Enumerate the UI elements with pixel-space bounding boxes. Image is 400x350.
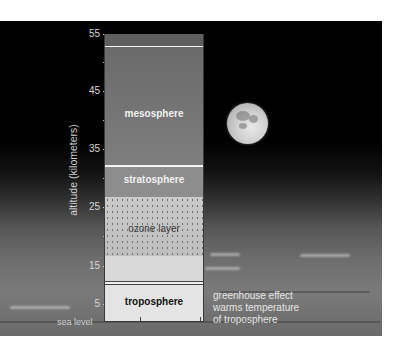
atmosphere-column: mesosphere stratosphere ozone layer trop…: [104, 34, 204, 322]
cloud-streak: [10, 306, 70, 309]
sea-level-label: sea level: [57, 317, 93, 327]
stratosphere-label: stratosphere: [105, 174, 203, 185]
ozone-layer-label: ozone layer: [105, 223, 203, 234]
cloud-streak: [300, 254, 350, 257]
tick-label-35: 35: [76, 143, 100, 154]
moon-image: [227, 103, 268, 144]
tick-label-5: 5: [76, 298, 100, 309]
tick-label-25: 25: [76, 201, 100, 212]
greenhouse-note: greenhouse effect warms temperature of t…: [213, 290, 299, 326]
stratopause-line: [105, 165, 203, 167]
note-line-3: of troposphere: [213, 314, 299, 326]
cloud-streak: [210, 253, 240, 256]
tick-label-55: 55: [76, 28, 100, 39]
note-line-2: warms temperature: [213, 302, 299, 314]
mesosphere-band: [105, 47, 203, 166]
bottom-tick-mark: [200, 317, 201, 321]
mesosphere-label: mesosphere: [105, 108, 203, 119]
lower-stratosphere-band: [105, 256, 203, 283]
tick-label-15: 15: [76, 260, 100, 271]
bottom-tick-mark: [140, 317, 141, 321]
cloud-streak: [205, 267, 240, 270]
tick-label-45: 45: [76, 85, 100, 96]
troposphere-label: troposphere: [105, 296, 203, 307]
note-line-1: greenhouse effect: [213, 290, 299, 302]
